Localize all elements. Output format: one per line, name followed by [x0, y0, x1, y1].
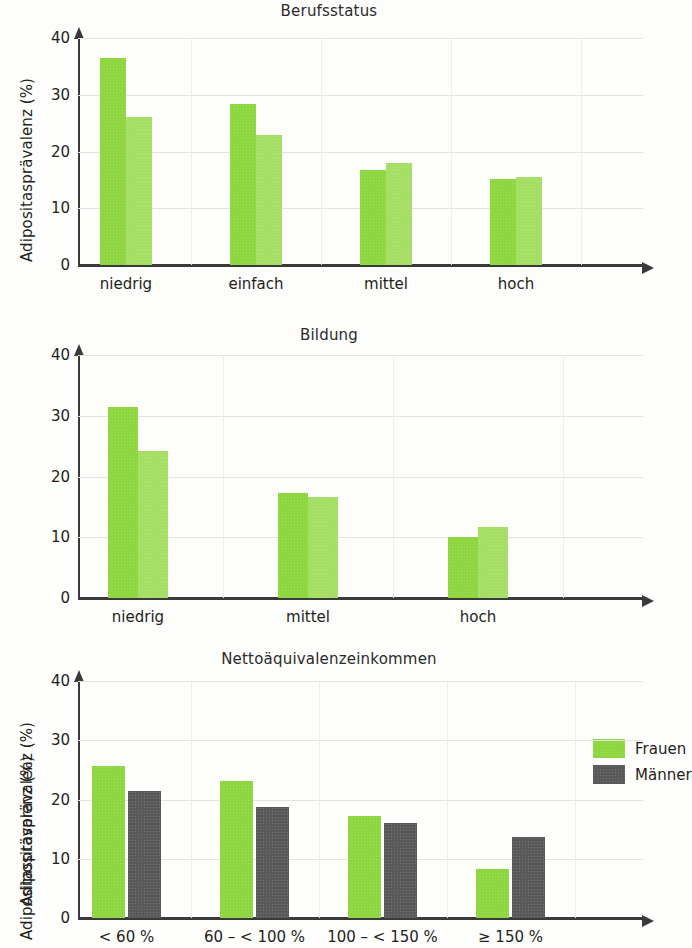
x-axis-arrow-icon	[642, 915, 654, 927]
gridline-vertical	[575, 681, 576, 918]
gridline-vertical	[447, 681, 448, 918]
gridline	[78, 152, 643, 153]
bar	[256, 807, 289, 918]
y-axis-label: Adipositasprävalenz (%)	[18, 756, 36, 940]
y-axis-tick-label: 30	[51, 87, 70, 102]
chart-panel-berufsstatus: Berufsstatus Adipositasprävalenz (%) 010…	[0, 0, 658, 310]
gridline-vertical	[321, 38, 322, 265]
bar	[516, 177, 542, 265]
bar	[512, 837, 545, 918]
bar	[220, 781, 253, 918]
y-axis-tick-label: 20	[51, 144, 70, 159]
y-axis-tick-label: 30	[51, 733, 70, 748]
gridline-vertical	[191, 38, 192, 265]
bar	[128, 791, 161, 918]
chart-title: Berufsstatus	[0, 2, 658, 20]
bar	[92, 766, 125, 918]
y-axis-tick-label: 20	[51, 469, 70, 484]
gridline-vertical	[451, 38, 452, 265]
legend-item-maenner: Männer	[593, 765, 692, 784]
bar	[490, 179, 516, 265]
legend: Frauen Männer	[593, 739, 692, 791]
bar	[360, 170, 386, 265]
x-axis-tick-label: ≥ 150 %	[411, 928, 611, 946]
y-axis-tick-label: 10	[51, 851, 70, 866]
bar	[100, 58, 126, 265]
plot-area: 010203040niedrigeinfachmittelhoch	[78, 38, 643, 265]
legend-swatch-frauen	[593, 739, 625, 758]
gridline-vertical	[563, 355, 564, 598]
chart-panel-nettoaequivalenzeinkommen: Nettoäquivalenzeinkommen Adipositaspräva…	[0, 640, 658, 948]
gridline-vertical	[319, 681, 320, 918]
x-axis-tick-label: hoch	[378, 608, 578, 626]
bar	[126, 117, 152, 265]
gridline	[78, 355, 643, 356]
bar	[478, 527, 508, 598]
chart-title: Bildung	[0, 326, 658, 344]
bar	[448, 537, 478, 598]
bar	[278, 493, 308, 598]
bar	[230, 104, 256, 265]
legend-swatch-maenner	[593, 765, 625, 784]
gridline	[78, 38, 643, 39]
gridline	[78, 95, 643, 96]
legend-label-maenner: Männer	[635, 766, 692, 784]
bar	[256, 135, 282, 265]
y-axis-tick-label: 0	[60, 258, 70, 273]
y-axis-tick-label: 10	[51, 201, 70, 216]
legend-label-frauen: Frauen	[635, 740, 686, 758]
gridline-vertical	[191, 681, 192, 918]
bar	[476, 869, 509, 918]
y-axis-tick-label: 0	[60, 591, 70, 606]
y-axis-tick-label: 10	[51, 530, 70, 545]
plot-area: Frauen Männer 010203040< 60 %60 – < 100 …	[78, 681, 643, 918]
y-axis-tick-label: 40	[51, 31, 70, 46]
gridline	[78, 740, 643, 741]
x-axis-arrow-icon	[642, 262, 654, 274]
bar	[348, 816, 381, 918]
gridline-vertical	[393, 355, 394, 598]
chart-panel-bildung: Bildung Adipositasprävalenz (%) 01020304…	[0, 310, 658, 640]
bar	[138, 451, 168, 598]
chart-title: Nettoäquivalenzeinkommen	[0, 650, 658, 668]
bar	[386, 163, 412, 265]
legend-item-frauen: Frauen	[593, 739, 692, 758]
gridline-vertical	[581, 38, 582, 265]
gridline-vertical	[223, 355, 224, 598]
bar	[308, 497, 338, 598]
gridline	[78, 681, 643, 682]
gridline	[78, 800, 643, 801]
plot-area: 010203040niedrigmittelhoch	[78, 355, 643, 598]
x-axis-arrow-icon	[642, 595, 654, 607]
bar	[108, 407, 138, 598]
x-axis-tick-label: hoch	[416, 275, 616, 293]
y-axis-tick-label: 40	[51, 348, 70, 363]
y-axis-tick-label: 20	[51, 792, 70, 807]
y-axis-tick-label: 40	[51, 674, 70, 689]
bar	[384, 823, 417, 918]
y-axis-label: Adipositasprävalenz (%)	[18, 78, 36, 262]
y-axis-tick-label: 0	[60, 911, 70, 926]
y-axis-tick-label: 30	[51, 408, 70, 423]
gridline	[78, 416, 643, 417]
